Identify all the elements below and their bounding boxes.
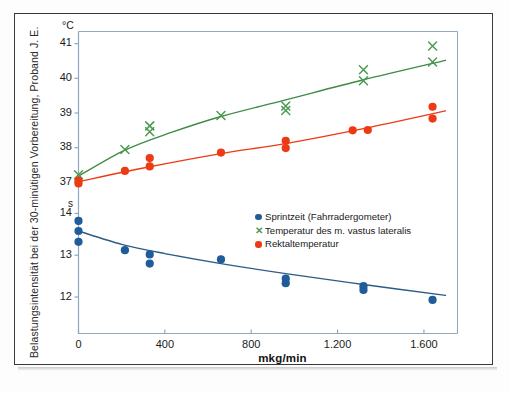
data-point-sprintzeit-6 (217, 255, 225, 263)
data-point-rektaltemperatur-7 (282, 144, 290, 152)
data-point-rektaltemperatur-11 (428, 114, 436, 122)
legend-item-sprintzeit: Sprintzeit (Fahrradergometer) (252, 210, 411, 224)
legend-label-muskeltemperatur: Temperatur des m. vastus lateralis (265, 224, 411, 238)
temperature-y-tick-label-41: 41 (48, 36, 72, 48)
data-point-rektaltemperatur-10 (428, 103, 436, 111)
data-point-sprintzeit-8 (282, 279, 290, 287)
data-point-temperatur-7 (359, 66, 367, 74)
data-point-temperatur-6 (282, 107, 290, 115)
legend-label-rektaltemperatur: Rektaltemperatur (265, 237, 339, 251)
plot-canvas (0, 0, 509, 393)
x-tick-label-1600: 1.600 (396, 338, 452, 350)
legend-item-muskeltemperatur: ✕ Temperatur des m. vastus lateralis (252, 224, 411, 238)
temperature-y-tick-label-38: 38 (48, 140, 72, 152)
x-tick-label-400: 400 (137, 338, 193, 350)
x-tick-label-800: 800 (223, 338, 279, 350)
plot-box-border (79, 32, 458, 334)
data-point-rektaltemperatur-8 (349, 126, 357, 134)
data-point-temperatur-3 (146, 128, 154, 136)
data-point-sprintzeit-2 (74, 238, 82, 246)
data-point-sprintzeit-0 (74, 217, 82, 225)
legend-label-sprintzeit: Sprintzeit (Fahrradergometer) (265, 210, 391, 224)
time-y-tick-label-12: 12 (48, 290, 72, 302)
data-point-sprintzeit-10 (359, 286, 367, 294)
data-point-temperatur-5 (282, 102, 290, 110)
series-markers-temperatur (75, 42, 437, 179)
data-point-temperatur-9 (429, 42, 437, 50)
legend-marker-circle-blue-icon (252, 210, 265, 224)
data-point-rektaltemperatur-5 (217, 148, 225, 156)
series-fit-line-temperatur (79, 60, 446, 176)
data-point-sprintzeit-11 (428, 296, 436, 304)
chart-legend: Sprintzeit (Fahrradergometer) ✕ Temperat… (252, 210, 411, 251)
data-point-rektaltemperatur-9 (364, 126, 372, 134)
legend-item-rektaltemperatur: Rektaltemperatur (252, 237, 411, 251)
legend-marker-x-green-icon: ✕ (252, 224, 265, 238)
x-tick-label-0: 0 (51, 338, 107, 350)
data-point-rektaltemperatur-1 (74, 179, 82, 187)
temperature-y-tick-label-39: 39 (48, 106, 72, 118)
time-y-tick-label-13: 13 (48, 248, 72, 260)
temperature-y-tick-label-37: 37 (48, 175, 72, 187)
data-point-rektaltemperatur-2 (121, 167, 129, 175)
time-y-tick-label-14: 14 (48, 206, 72, 218)
legend-marker-circle-red-icon (252, 237, 265, 251)
temperature-y-tick-label-40: 40 (48, 71, 72, 83)
data-point-sprintzeit-4 (146, 250, 154, 258)
data-point-rektaltemperatur-6 (282, 137, 290, 145)
data-point-sprintzeit-1 (74, 227, 82, 235)
data-point-sprintzeit-5 (146, 259, 154, 267)
data-point-sprintzeit-3 (121, 246, 129, 254)
data-point-rektaltemperatur-3 (146, 154, 154, 162)
data-point-rektaltemperatur-4 (146, 162, 154, 170)
x-tick-label-1200: 1.200 (310, 338, 366, 350)
figure-root: °C s Belastungsintensität bei der 30-min… (0, 0, 509, 393)
